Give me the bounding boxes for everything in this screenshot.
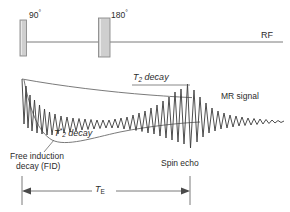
t2-decay-label: T2 decay [133,72,169,83]
ninety-degree-symbol: ° [38,9,41,16]
rf-channel-label: RF [261,30,273,40]
one-eighty-degree-symbol: ° [125,9,128,16]
te-right-arrowhead [181,188,190,195]
one-eighty-degree-angle-text: 180 [111,10,125,20]
t2-decay-label-suffix: decay [142,72,169,82]
te-left-arrowhead [22,188,31,195]
mr-signal-label: MR signal [221,92,259,102]
t2-star-decay-label-suffix: decay [66,128,93,138]
te-label: TE [95,184,105,195]
t2-star-decay-label: T*2 decay [54,127,92,139]
one-eighty-degree-pulse-label: 180° [111,9,128,20]
spin-echo-label: Spin echo [161,159,199,169]
fid-label: Free induction decay (FID) [10,152,64,172]
spin-echo-pulse-sequence-figure: 90° 180° RF T2 decay T*2 decay MR signal… [0,0,290,212]
ninety-degree-pulse-bar [20,20,27,56]
fid-label-line-2: decay (FID) [10,162,64,172]
figure-canvas [0,0,290,212]
ninety-degree-pulse-label: 90° [29,9,41,20]
te-label-subscript: E [101,188,105,195]
